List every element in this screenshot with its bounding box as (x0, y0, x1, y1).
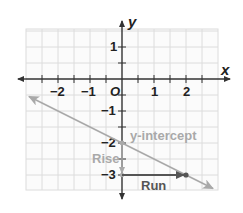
run-label: Run (141, 178, 166, 193)
x-tick-label: 2 (183, 84, 190, 99)
y-tick-label: −2 (101, 135, 116, 150)
x-tick-label: −2 (50, 84, 65, 99)
y-tick-label: −3 (101, 167, 116, 182)
y-axis-label: y (127, 13, 137, 30)
y-tick-label: −1 (101, 103, 116, 118)
x-axis-label: x (220, 61, 230, 78)
coordinate-plane: y x −2 −1 O 1 2 1 −1 −2 −3 y-intercept R… (0, 0, 243, 213)
x-tick-label: −1 (81, 84, 96, 99)
run-end-point (183, 172, 188, 177)
y-tick-label: 1 (110, 39, 117, 54)
rise-label: Rise (92, 151, 119, 166)
y-intercept-point (120, 141, 125, 146)
origin-label: O (110, 84, 120, 99)
y-intercept-label: y-intercept (130, 128, 197, 143)
x-tick-label: 1 (151, 84, 158, 99)
